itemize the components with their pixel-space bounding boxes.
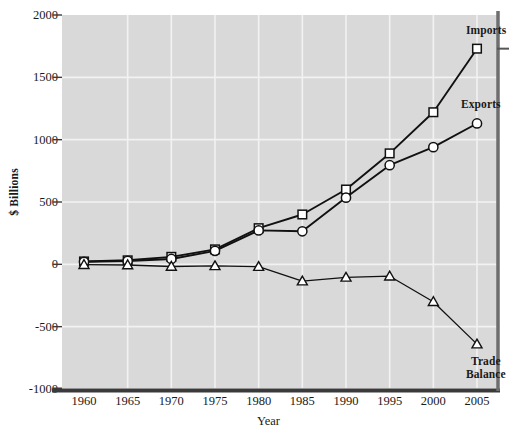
data-point-marker-circle bbox=[210, 246, 219, 255]
series-label-exports: Exports bbox=[461, 98, 501, 111]
trade-line-chart: $ Billions 2000150010005000-500-1000 196… bbox=[0, 0, 523, 438]
data-point-marker-circle bbox=[254, 226, 263, 235]
data-point-marker-circle bbox=[298, 227, 307, 236]
plot-area bbox=[0, 0, 523, 438]
data-point-marker-square bbox=[473, 44, 482, 53]
series-label-trade-balance-line2: Balance bbox=[466, 368, 506, 381]
data-point-marker-circle bbox=[472, 119, 481, 128]
data-point-marker-square bbox=[429, 108, 438, 117]
series-label-trade-balance: Trade Balance bbox=[466, 355, 506, 381]
series-label-imports: Imports bbox=[466, 24, 506, 37]
series-label-trade-balance-line1: Trade bbox=[466, 355, 506, 368]
data-point-marker-circle bbox=[429, 143, 438, 152]
data-point-marker-circle bbox=[385, 161, 394, 170]
data-point-marker-square bbox=[385, 149, 394, 158]
data-point-marker-square bbox=[298, 210, 307, 219]
data-point-marker-circle bbox=[341, 193, 350, 202]
